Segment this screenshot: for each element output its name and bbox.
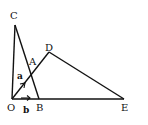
label-A: A <box>28 56 37 67</box>
segment-DE <box>49 52 124 99</box>
label-vector-a: a <box>17 71 23 81</box>
vector-b-arrow-icon <box>21 96 30 101</box>
geometry-diagram: C D A a O b B E <box>0 0 148 125</box>
label-D: D <box>45 42 53 53</box>
label-B: B <box>36 102 43 113</box>
label-E: E <box>121 102 128 113</box>
segment-OC <box>12 25 15 99</box>
label-O: O <box>7 102 15 113</box>
label-vector-b: b <box>23 105 29 115</box>
label-C: C <box>10 10 18 21</box>
